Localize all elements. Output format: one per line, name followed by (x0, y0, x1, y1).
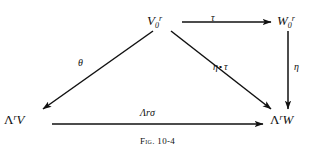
arrow-label-eta: η (294, 62, 299, 72)
node-w0r-superscript: r (292, 14, 295, 23)
node-w0r: W0r (277, 14, 295, 30)
arrow-label-tau-part: τ (224, 61, 228, 72)
node-lambda-v-argument: V (17, 112, 25, 127)
node-v0r: V0r (147, 14, 162, 30)
arrow-line-theta (43, 31, 153, 109)
arrow-label-lambda-r-sigma: Λrσ (140, 108, 155, 118)
node-lambda-w-argument: W (283, 112, 294, 127)
figure-10-4: V0r W0r ΛrV ΛrW τ θ η∘τ η Λrσ Fig. 10-4 (0, 0, 315, 156)
node-lambda-r-v: ΛrV (4, 113, 25, 126)
node-v0r-base: V (147, 13, 155, 28)
figure-caption: Fig. 10-4 (0, 136, 315, 146)
arrow-label-theta: θ (78, 58, 83, 68)
arrow-label-tau: τ (211, 13, 215, 23)
node-lambda-r-w: ΛrW (270, 113, 293, 126)
node-v0r-superscript: r (159, 14, 162, 23)
figure-caption-number: 10-4 (157, 136, 175, 146)
node-w0r-base: W (277, 13, 288, 28)
figure-caption-prefix: Fig. (140, 136, 155, 146)
arrow-label-sigma-part: σ (150, 107, 155, 118)
arrow-label-eta-compose-tau: η∘τ (213, 62, 228, 72)
